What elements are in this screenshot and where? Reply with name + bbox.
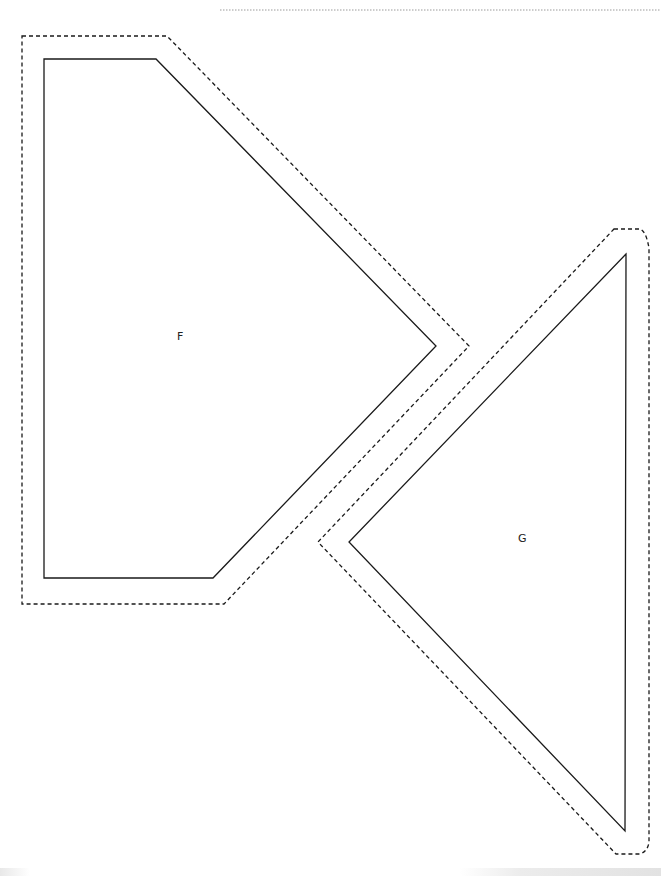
piece-f-cut-line <box>44 59 436 578</box>
piece-g-seam-allowance-dashed <box>318 229 649 854</box>
piece-f-seam-allowance-dashed <box>22 36 469 604</box>
piece-g-cut-line <box>349 254 626 831</box>
scan-edge-shadow <box>0 868 661 876</box>
pattern-sheet: F G <box>0 0 661 876</box>
pattern-piece-f: F <box>22 36 469 604</box>
pattern-piece-g: G <box>318 229 649 854</box>
piece-g-label: G <box>518 532 527 545</box>
piece-f-label: F <box>177 330 183 343</box>
